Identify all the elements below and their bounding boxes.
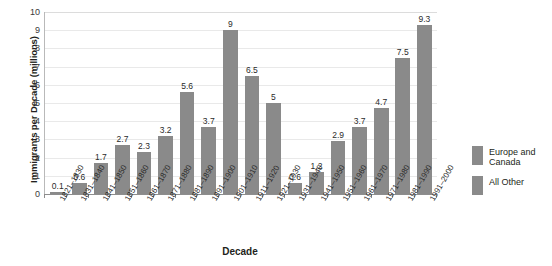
y-axis-title: Immigrants per Decade (millions) bbox=[28, 15, 39, 205]
bar-slot: 0.1 bbox=[47, 12, 69, 194]
clipped-top-caption bbox=[255, 0, 545, 2]
legend-label: Europe and Canada bbox=[489, 146, 552, 167]
legend-entry[interactable]: All Other bbox=[472, 176, 552, 195]
legend-swatch bbox=[472, 176, 483, 195]
bar-value-label: 9.3 bbox=[418, 14, 430, 24]
bar-value-label: 5 bbox=[271, 92, 276, 102]
bar-value-label: 2.7 bbox=[117, 134, 129, 144]
bar-value-label: 3.2 bbox=[160, 125, 172, 135]
immigration-bar-chart: Immigrants per Decade (millions) 1098765… bbox=[0, 0, 552, 266]
legend-entry[interactable]: Europe and Canada bbox=[472, 146, 552, 167]
bar-value-label: 5.6 bbox=[181, 81, 193, 91]
bar-value-label: 2.9 bbox=[332, 130, 344, 140]
chart-legend: Europe and CanadaAll Other bbox=[472, 146, 552, 204]
bar-value-label: 1.7 bbox=[95, 152, 107, 162]
bar-value-label: 2.3 bbox=[138, 141, 150, 151]
legend-swatch bbox=[472, 146, 483, 165]
bar-value-label: 4.7 bbox=[375, 97, 387, 107]
bar-value-label: 3.7 bbox=[203, 116, 215, 126]
x-axis-tick-labels: 1821–18301831–18401841–18501851–18601861… bbox=[44, 198, 436, 242]
legend-label: All Other bbox=[489, 176, 524, 187]
bar-value-label: 3.7 bbox=[354, 116, 366, 126]
bar-value-label: 9 bbox=[228, 19, 233, 29]
x-axis-title: Decade bbox=[44, 246, 436, 257]
bar-value-label: 6.5 bbox=[246, 65, 258, 75]
bar-value-label: 7.5 bbox=[397, 47, 409, 57]
